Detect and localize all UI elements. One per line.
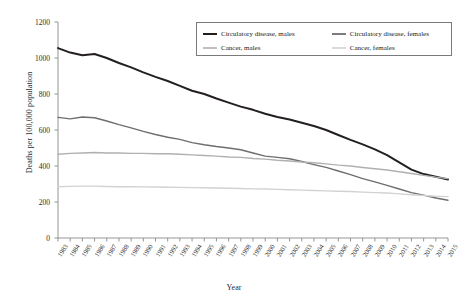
series-line (58, 48, 448, 179)
y-axis-tick-label: 400 (16, 162, 50, 171)
chart-legend: Circulatory disease, males Circulatory d… (196, 22, 452, 56)
y-axis-tick-label: 1200 (16, 18, 50, 27)
legend-swatch-circulatory-females (332, 32, 346, 36)
y-axis-tick-label: 600 (16, 126, 50, 135)
legend-swatch-cancer-males (203, 46, 217, 50)
series-line (58, 186, 448, 196)
legend-label-circulatory-females: Circulatory disease, females (350, 30, 429, 38)
legend-label-cancer-males: Cancer, males (221, 44, 260, 52)
legend-item-circulatory-males: Circulatory disease, males (203, 30, 332, 38)
y-axis-tick-label: 1000 (16, 54, 50, 63)
legend-item-cancer-females: Cancer, females (332, 44, 445, 52)
line-chart: Deaths per 100,000 population Year 02004… (0, 0, 468, 301)
y-axis-tick-label: 200 (16, 198, 50, 207)
legend-swatch-circulatory-males (203, 32, 217, 36)
legend-item-cancer-males: Cancer, males (203, 44, 332, 52)
y-axis-title: Deaths per 100,000 population (25, 43, 34, 203)
y-axis-tick-label: 800 (16, 90, 50, 99)
y-axis-tick-label: 0 (16, 234, 50, 243)
legend-item-circulatory-females: Circulatory disease, females (332, 30, 445, 38)
legend-swatch-cancer-females (332, 46, 346, 50)
legend-label-cancer-females: Cancer, females (350, 44, 395, 52)
legend-label-circulatory-males: Circulatory disease, males (221, 30, 295, 38)
